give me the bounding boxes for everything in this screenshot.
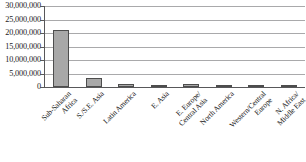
bar xyxy=(53,30,69,87)
x-axis-tick-labels: Sub-Saharan AfricaS./S.E. AsiaLatin Amer… xyxy=(45,88,306,162)
bar-series xyxy=(45,6,305,88)
bar xyxy=(86,78,102,87)
x-axis-tick-label: Latin America xyxy=(73,90,138,155)
y-axis-tick-mark xyxy=(40,87,44,88)
y-axis-tick-label: 5,000,000 xyxy=(9,69,41,77)
bar xyxy=(151,85,167,87)
plot-area xyxy=(45,6,305,88)
bar xyxy=(248,85,264,87)
bar xyxy=(118,84,134,87)
y-axis-tick-mark xyxy=(40,33,44,34)
y-axis-tick-mark xyxy=(40,6,44,7)
y-axis-tick-mark xyxy=(40,74,44,75)
y-axis-tick-label: 25,000,000 xyxy=(5,15,41,23)
y-axis-tick-mark xyxy=(40,20,44,21)
bar xyxy=(216,85,232,87)
bar-chart: 05,000,00010,000,00015,000,00020,000,000… xyxy=(0,0,306,162)
y-axis-tick-label: 30,000,000 xyxy=(5,2,41,10)
bar xyxy=(183,84,199,87)
y-axis-tick-label: 20,000,000 xyxy=(5,29,41,37)
y-axis-tick-label: 15,000,000 xyxy=(5,42,41,50)
bar xyxy=(281,85,297,87)
y-axis-tick-label: 10,000,000 xyxy=(5,56,41,64)
y-axis-tick-mark xyxy=(40,60,44,61)
y-axis-tick-labels: 05,000,00010,000,00015,000,00020,000,000… xyxy=(0,0,44,88)
y-axis-tick-mark xyxy=(40,47,44,48)
